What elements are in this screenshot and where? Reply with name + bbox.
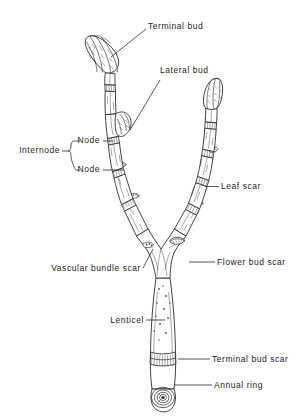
label-lateral-bud: Lateral bud xyxy=(160,66,209,75)
label-node-upper: Node xyxy=(0,136,100,145)
lateral-bud xyxy=(115,112,131,137)
annual-ring-mark xyxy=(151,387,176,412)
twig-diagram-figure: Terminal bud Lateral bud Node Node Inter… xyxy=(0,0,308,418)
label-internode: Internode xyxy=(0,146,60,155)
label-annual-ring: Annual ring xyxy=(214,381,263,390)
flower-bud-scar-marks xyxy=(170,237,185,244)
terminal-bud-scar-mark xyxy=(150,352,176,366)
leader-lateral-bud xyxy=(130,80,160,130)
label-flower-bud-scar: Flower bud scar xyxy=(217,258,286,267)
label-terminal-bud-scar: Terminal bud scar xyxy=(212,355,288,364)
main-trunk xyxy=(150,278,175,389)
branch-fork xyxy=(137,229,187,278)
right-branch xyxy=(175,78,223,236)
label-vascular-bundle-scar: Vascular bundle scar xyxy=(0,264,141,273)
right-terminal-bud xyxy=(203,78,222,109)
label-leaf-scar: Leaf scar xyxy=(221,182,261,191)
leader-terminal-bud xyxy=(111,29,146,57)
label-node-lower: Node xyxy=(0,165,100,174)
label-lenticel: Lenticel xyxy=(0,316,144,325)
label-terminal-bud: Terminal bud xyxy=(148,22,203,31)
